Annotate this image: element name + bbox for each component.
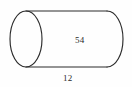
length-label: 54 (75, 36, 84, 45)
right-cap-arc (107, 11, 123, 67)
left-cap-ellipse (10, 11, 42, 67)
cylinder-diagram: 54 12 (0, 0, 132, 87)
width-label: 12 (63, 74, 72, 83)
